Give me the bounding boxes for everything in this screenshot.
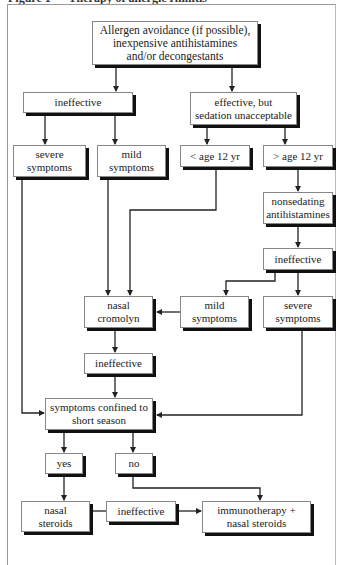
node-ineffective-2: ineffective [263,248,333,270]
node-start: Allergen avoidance (if possible), inexpe… [92,21,258,65]
edge-severe-season [22,179,44,413]
node-age-under-12: < age 12 yr [180,145,250,167]
node-mild-symptoms-2: mild symptoms [180,296,249,328]
node-immunotherapy: immunotherapy + nasal steroids [202,501,311,533]
edge-no-immuno [133,477,260,500]
edge-under12-cromolyn [130,170,216,295]
node-effective-sedation: effective, but sedation unacceptable [190,92,297,125]
node-age-over-12: > age 12 yr [263,145,333,167]
node-short-season: symptoms confined to short season [45,398,153,430]
node-ineffective-1: ineffective [23,92,133,113]
edge-ineffective-mild2 [226,273,275,295]
edge-severe2-season [157,331,302,415]
node-ineffective-3: ineffective [84,353,153,374]
node-nasal-steroids: nasal steroids [21,501,90,532]
node-severe-symptoms-2: severe symptoms [263,296,333,328]
node-nasal-cromolyn: nasal cromolyn [84,296,153,328]
node-severe-symptoms-1: severe symptoms [13,145,86,177]
node-ineffective-4: ineffective [106,501,176,522]
node-mild-symptoms-1: mild symptoms [97,145,166,177]
node-nonsedating-antihistamines: nonsedating antihistamines [263,192,333,224]
node-yes: yes [45,453,83,474]
node-no: no [115,453,153,474]
